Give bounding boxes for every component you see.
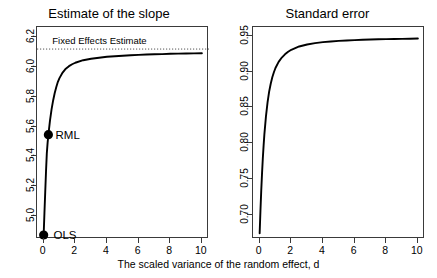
y-tick-label: 5.8: [26, 79, 36, 113]
x-tick-label: 8: [373, 245, 397, 256]
y-tick-label: 0.85: [240, 89, 250, 123]
x-tick-label: 8: [157, 245, 181, 256]
x-tick-mark: [169, 238, 170, 243]
x-tick-mark: [417, 238, 418, 243]
data-point-rml: [44, 130, 53, 139]
data-curve-0: [260, 39, 418, 234]
panel-standard-error: Standard error 02468100.700.750.800.850.…: [218, 0, 437, 278]
y-tick-label: 6.0: [26, 49, 36, 83]
panel-estimate-of-the-slope: Estimate of the slope Fixed Effects Esti…: [0, 0, 218, 278]
x-tick-mark: [259, 238, 260, 243]
plot-frame-estimate-of-the-slope: Fixed Effects EstimateRMLOLS: [36, 26, 208, 238]
annotation-fixed-effects-estimate: Fixed Effects Estimate: [52, 36, 146, 46]
y-tick-label: 0.75: [240, 161, 250, 195]
y-tick-label: 0.95: [240, 18, 250, 52]
data-point-ols: [39, 230, 48, 239]
y-tick-label: 5.4: [26, 138, 36, 172]
x-tick-mark: [201, 238, 202, 243]
plot-frame-standard-error: [252, 26, 424, 238]
curve-layer: [253, 27, 425, 239]
x-tick-label: 0: [31, 245, 55, 256]
plot-area-estimate-of-the-slope: Fixed Effects EstimateRMLOLS: [37, 27, 207, 237]
y-tick-label: 6.2: [26, 19, 36, 53]
y-tick-label: 5.2: [26, 168, 36, 202]
x-tick-mark: [385, 238, 386, 243]
x-tick-mark: [138, 238, 139, 243]
data-curve-0: [44, 53, 202, 235]
y-tick-label: 5.0: [26, 198, 36, 232]
y-tick-label: 5.6: [26, 109, 36, 143]
x-tick-label: 6: [342, 245, 366, 256]
x-tick-label: 10: [189, 245, 213, 256]
point-label-rml: RML: [56, 129, 80, 141]
x-tick-mark: [290, 238, 291, 243]
x-tick-label: 4: [310, 245, 334, 256]
x-tick-label: 2: [278, 245, 302, 256]
x-tick-label: 0: [247, 245, 271, 256]
x-tick-mark: [354, 238, 355, 243]
y-tick-label: 0.90: [240, 54, 250, 88]
x-tick-label: 4: [94, 245, 118, 256]
point-label-ols: OLS: [54, 229, 77, 241]
x-tick-mark: [74, 238, 75, 243]
x-tick-label: 10: [405, 245, 429, 256]
x-tick-label: 6: [126, 245, 150, 256]
shared-x-axis-label: The scaled variance of the random effect…: [0, 258, 437, 270]
plot-area-standard-error: [253, 27, 423, 237]
x-tick-mark: [106, 238, 107, 243]
y-tick-label: 0.80: [240, 125, 250, 159]
x-tick-mark: [322, 238, 323, 243]
y-tick-label: 0.70: [240, 197, 250, 231]
panel-title-standard-error: Standard error: [218, 6, 437, 21]
x-tick-label: 2: [62, 245, 86, 256]
x-tick-mark: [43, 238, 44, 243]
